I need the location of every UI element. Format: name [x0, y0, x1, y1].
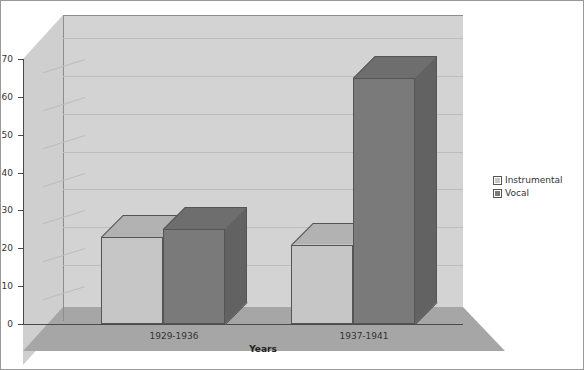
y-axis-tick [18, 97, 23, 98]
y-axis-line [23, 59, 24, 325]
bar-vocal-0[interactable] [163, 207, 225, 324]
gridline [63, 38, 463, 39]
wall-left-edge [63, 15, 64, 321]
y-axis-tick-label: 50 [0, 130, 13, 140]
legend-label: Instrumental [505, 175, 563, 185]
chart-3d-scene: 010203040506070 1929-19361937-1941 Years… [1, 1, 584, 370]
legend-swatch-fill [495, 191, 500, 196]
legend-item[interactable]: Instrumental [493, 175, 563, 185]
bar-front-face [163, 229, 225, 324]
bar-front-face [291, 245, 353, 325]
legend-item[interactable]: Vocal [493, 188, 563, 198]
y-axis-tick [18, 135, 23, 136]
legend-label: Vocal [505, 188, 529, 198]
chart-legend: InstrumentalVocal [493, 175, 563, 201]
chart-page: 010203040506070 1929-19361937-1941 Years… [0, 0, 584, 370]
bar-instrumental-1[interactable] [291, 223, 353, 325]
legend-swatch-icon [493, 176, 502, 185]
bar-edge [246, 207, 247, 302]
bar-edge [436, 56, 437, 302]
bar-instrumental-0[interactable] [101, 215, 163, 324]
y-axis-tick-label: 30 [0, 205, 13, 215]
y-axis-tick-label: 60 [0, 92, 13, 102]
y-axis-tick [18, 173, 23, 174]
bar-front-face [101, 237, 163, 324]
x-axis-line [23, 324, 463, 325]
x-axis-category-label: 1929-1936 [81, 331, 267, 341]
bar-edge [375, 56, 437, 57]
y-axis-tick-label: 10 [0, 281, 13, 291]
y-axis-tick-label: 20 [0, 243, 13, 253]
legend-swatch-fill [495, 178, 500, 183]
bar-vocal-1[interactable] [353, 56, 415, 324]
y-axis-tick [18, 59, 23, 60]
y-axis-tick [18, 248, 23, 249]
wall-top-edge [63, 15, 463, 16]
y-axis-tick-label: 70 [0, 54, 13, 64]
bar-side-face [415, 56, 437, 324]
x-axis-category-label: 1937-1941 [271, 331, 457, 341]
bar-edge [185, 207, 247, 208]
y-axis-tick [18, 286, 23, 287]
y-axis-tick-label: 0 [0, 319, 13, 329]
x-axis-title: Years [183, 344, 343, 354]
y-axis-tick [18, 210, 23, 211]
legend-swatch-icon [493, 189, 502, 198]
y-axis-tick-label: 40 [0, 168, 13, 178]
bar-front-face [353, 78, 415, 324]
y-axis-tick [18, 324, 23, 325]
